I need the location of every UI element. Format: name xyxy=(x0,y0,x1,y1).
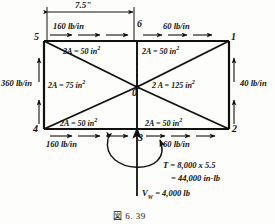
area-text: 2A = 50 in xyxy=(142,47,176,56)
area-text: 2 A = 125 in xyxy=(152,81,192,90)
shear-force-label: VW = 4,000 lb xyxy=(142,189,190,200)
node-label-1: 1 xyxy=(231,32,236,42)
area-label-bottom-left: 2A = 50 in2 xyxy=(60,117,97,128)
area-exponent: 2 xyxy=(82,79,85,85)
node-label-5: 5 xyxy=(34,32,39,42)
load-label-left: 360 lb/in xyxy=(1,79,32,88)
area-label-top-left: 2A = 50 in2 xyxy=(63,45,100,56)
load-label-top-left: 160 lb/in xyxy=(53,22,84,31)
area-text: 2A = 50 in xyxy=(63,47,97,56)
shear-subscript: W xyxy=(148,194,153,200)
load-label-top-right: 60 lb/in xyxy=(163,22,190,31)
node-label-0: 0 xyxy=(132,88,137,98)
area-text: 2A = 50 in xyxy=(60,119,94,128)
area-exponent: 2 xyxy=(94,117,97,123)
node-label-2: 2 xyxy=(232,124,237,134)
area-label-bottom-right: 2A = 50 in2 xyxy=(145,117,182,128)
load-label-bottom-right: 60 lb/in xyxy=(163,140,190,149)
area-label-right: 2 A = 125 in2 xyxy=(152,79,195,90)
dimension-label-width: 7.5" xyxy=(75,1,91,10)
area-text: 2A = 50 in xyxy=(145,119,179,128)
area-label-left: 2A = 75 in2 xyxy=(48,79,85,90)
node-label-6: 6 xyxy=(137,19,142,29)
shear-value: = 4,000 lb xyxy=(155,188,190,198)
figure-caption: 図 6. 39 xyxy=(113,209,146,222)
load-label-right: 40 lb/in xyxy=(240,79,267,88)
torque-line-1: T = 8,000 x 5.5 xyxy=(163,161,216,170)
node-label-4: 4 xyxy=(33,124,38,134)
area-exponent: 2 xyxy=(192,79,195,85)
node-label-3: 3 xyxy=(138,133,143,143)
area-label-top-right: 2A = 50 in2 xyxy=(142,45,179,56)
area-exponent: 2 xyxy=(179,117,182,123)
torque-arc-arrow xyxy=(107,139,162,167)
load-label-bottom-left: 160 lb/in xyxy=(46,140,77,149)
torque-line-2: = 44,000 in-lb xyxy=(171,174,220,183)
area-text: 2A = 75 in xyxy=(48,81,82,90)
area-exponent: 2 xyxy=(97,45,100,51)
area-exponent: 2 xyxy=(176,45,179,51)
